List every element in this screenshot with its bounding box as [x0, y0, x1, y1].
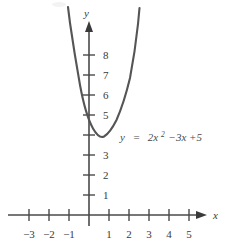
equation-lhs: y [119, 131, 125, 143]
x-tick-label-3: 3 [146, 228, 152, 240]
x-tick-label-2: 2 [126, 228, 132, 240]
x-tick-label-5: 5 [186, 228, 192, 240]
x-axis-arrowhead [196, 211, 207, 219]
y-axis-arrowhead [85, 21, 93, 32]
equation-annotation: y = 2x 2 −3x +5 [119, 127, 202, 143]
equation-term-a: 2x [148, 131, 159, 143]
equation-term-b: −3x [168, 131, 186, 143]
y-tick-label-3: 3 [103, 149, 109, 161]
y-tick-label-5: 5 [103, 109, 109, 121]
x-axis-label: x [212, 209, 218, 221]
y-tick-label-2: 2 [103, 169, 109, 181]
y-tick-label-6: 6 [103, 89, 109, 101]
x-tick-label--3: −3 [23, 228, 35, 240]
x-tick-label--1: −1 [63, 228, 75, 240]
x-tick-label-4: 4 [166, 228, 172, 240]
graph-figure: −3 −2 −1 1 2 3 4 5 1 2 3 5 6 7 8 x y y =… [0, 0, 230, 248]
x-tick-labels: −3 −2 −1 1 2 3 4 5 [23, 228, 192, 240]
equation-equals: = [133, 131, 140, 143]
x-tick-label--2: −2 [43, 228, 55, 240]
equation-term-c: +5 [189, 131, 202, 143]
y-tick-labels: 1 2 3 5 6 7 8 [103, 49, 109, 201]
x-tick-label-1: 1 [106, 228, 112, 240]
y-tick-label-1: 1 [103, 189, 109, 201]
y-tick-label-8: 8 [103, 49, 109, 61]
y-tick-label-7: 7 [103, 69, 109, 81]
y-axis-label: y [83, 7, 89, 19]
equation-exponent: 2 [161, 130, 165, 139]
